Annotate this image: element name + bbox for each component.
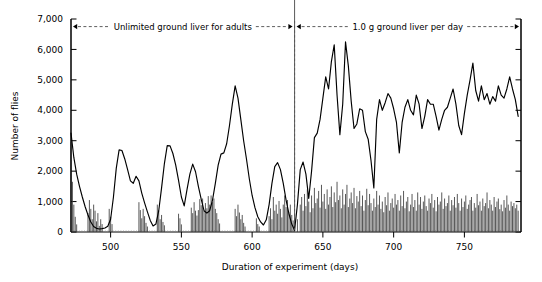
phase-1-label: Unlimited ground liver for adults xyxy=(114,22,253,32)
y-tick-label: 1,000 xyxy=(37,197,63,207)
chart-background xyxy=(0,0,542,282)
y-tick-label: 3,000 xyxy=(37,136,63,146)
x-tick-label: 550 xyxy=(173,242,190,252)
x-tick-label: 600 xyxy=(244,242,261,252)
y-tick-label: 2,000 xyxy=(37,166,63,176)
x-tick-label: 700 xyxy=(385,242,402,252)
fly-population-chart: Number of flies Duration of experiment (… xyxy=(0,0,542,282)
y-tick-label: 5,000 xyxy=(37,75,63,85)
y-axis-title: Number of flies xyxy=(10,91,20,160)
x-tick-label: 500 xyxy=(102,242,119,252)
phase-2-label: 1.0 g ground liver per day xyxy=(352,22,463,32)
x-tick-label: 650 xyxy=(314,242,331,252)
chart-figure: Number of flies Duration of experiment (… xyxy=(0,0,542,282)
y-tick-label: 0 xyxy=(57,227,63,237)
y-tick-label: 4,000 xyxy=(37,105,63,115)
y-tick-label: 7,000 xyxy=(37,14,63,24)
x-tick-label: 750 xyxy=(456,242,473,252)
x-axis-title: Duration of experiment (days) xyxy=(222,262,358,272)
y-tick-label: 6,000 xyxy=(37,45,63,55)
